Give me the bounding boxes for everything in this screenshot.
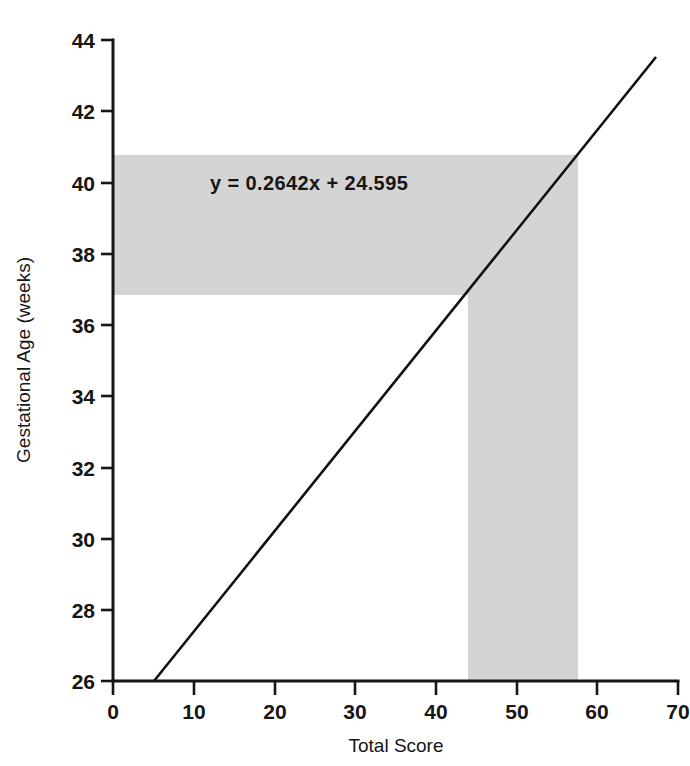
x-tick-label-10: 10 — [182, 700, 205, 723]
x-tick-label-60: 60 — [585, 700, 608, 723]
y-tick-label-40: 40 — [72, 172, 95, 195]
y-tick-label-30: 30 — [72, 528, 95, 551]
y-tick-label-32: 32 — [72, 457, 95, 480]
x-axis-title: Total Score — [348, 735, 443, 756]
y-axis-ticks — [101, 40, 113, 681]
x-tick-label-0: 0 — [107, 700, 119, 723]
shaded-regions — [113, 155, 578, 681]
y-tick-label-42: 42 — [72, 100, 95, 123]
regression-equation-label: y = 0.2642x + 24.595 — [210, 172, 408, 194]
x-tick-label-20: 20 — [263, 700, 286, 723]
x-tick-label-30: 30 — [343, 700, 366, 723]
y-tick-label-26: 26 — [72, 670, 95, 693]
chart-canvas: 44 42 40 38 36 34 32 30 28 26 0 10 20 — [0, 0, 690, 766]
regression-line — [154, 57, 656, 681]
y-tick-label-34: 34 — [72, 385, 96, 408]
y-tick-label-44: 44 — [72, 29, 96, 52]
score-range-band — [468, 295, 578, 681]
y-axis-tick-labels: 44 42 40 38 36 34 32 30 28 26 — [72, 29, 96, 693]
y-tick-label-38: 38 — [72, 243, 96, 266]
x-axis-tick-labels: 0 10 20 30 40 50 60 70 — [107, 700, 690, 723]
x-tick-label-40: 40 — [424, 700, 447, 723]
y-tick-label-28: 28 — [72, 599, 96, 622]
y-axis-title: Gestational Age (weeks) — [13, 257, 34, 463]
x-tick-label-50: 50 — [505, 700, 528, 723]
regression-chart: 44 42 40 38 36 34 32 30 28 26 0 10 20 — [0, 0, 690, 766]
x-tick-label-70: 70 — [666, 700, 689, 723]
x-axis-ticks — [113, 681, 678, 695]
y-tick-label-36: 36 — [72, 314, 95, 337]
